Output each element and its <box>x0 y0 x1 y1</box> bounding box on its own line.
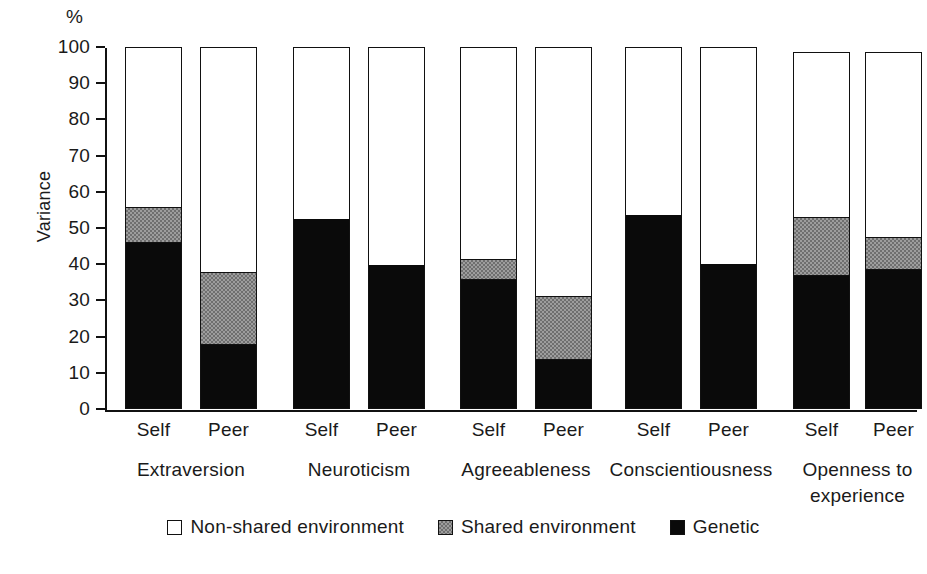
bar-agreeableness-self <box>460 47 517 409</box>
segment-genetic <box>701 264 756 408</box>
rater-label-self-8: Self <box>793 419 850 441</box>
y-tick-80: 80 <box>96 118 105 120</box>
y-tick-label-40: 40 <box>68 253 90 275</box>
chart-legend: Non-shared environmentShared environment… <box>0 516 927 538</box>
y-tick-0: 0 <box>96 408 105 410</box>
y-tick-label-80: 80 <box>68 108 90 130</box>
bar-openness-to-experience-self <box>793 52 850 409</box>
bar-openness-to-experience-peer <box>865 52 922 409</box>
group-label-line1: Openness to <box>748 457 927 483</box>
bar-extraversion-self <box>125 47 182 409</box>
y-tick-label-10: 10 <box>68 361 90 383</box>
y-axis-unit-label: % <box>66 6 83 28</box>
legend-item-non-shared-environment: Non-shared environment <box>167 516 404 538</box>
y-tick-label-90: 90 <box>68 72 90 94</box>
segment-shared-environment <box>126 207 181 243</box>
bar-agreeableness-peer <box>535 47 592 409</box>
segment-shared-environment <box>794 217 849 276</box>
segment-shared-environment <box>461 259 516 280</box>
segment-genetic <box>794 276 849 408</box>
segment-genetic <box>866 270 921 408</box>
group-label-line2: experience <box>748 483 927 509</box>
y-tick-label-20: 20 <box>68 325 90 347</box>
segment-shared-environment <box>866 237 921 270</box>
rater-label-self-2: Self <box>293 419 350 441</box>
bar-neuroticism-self <box>293 47 350 409</box>
segment-genetic <box>201 345 256 408</box>
legend-label: Genetic <box>693 516 760 538</box>
legend-item-genetic: Genetic <box>670 516 760 538</box>
stacked-bar-chart-figure: % Variance 0102030405060708090100 SelfPe… <box>0 0 927 574</box>
y-tick-10: 10 <box>96 372 105 374</box>
bar-neuroticism-peer <box>368 47 425 409</box>
y-tick-label-100: 100 <box>58 36 90 58</box>
y-tick-90: 90 <box>96 82 105 84</box>
rater-label-self-4: Self <box>460 419 517 441</box>
legend-label: Non-shared environment <box>190 516 404 538</box>
segment-genetic <box>626 215 681 408</box>
y-tick-40: 40 <box>96 263 105 265</box>
y-tick-60: 60 <box>96 191 105 193</box>
segment-shared-environment <box>536 296 591 360</box>
segment-genetic <box>294 219 349 408</box>
segment-genetic <box>369 265 424 408</box>
y-tick-label-50: 50 <box>68 217 90 239</box>
y-tick-30: 30 <box>96 299 105 301</box>
y-axis-line <box>105 48 107 412</box>
plot-area: 0102030405060708090100 <box>105 48 917 411</box>
segment-shared-environment <box>201 272 256 345</box>
rater-label-self-6: Self <box>625 419 682 441</box>
y-tick-label-30: 30 <box>68 289 90 311</box>
rater-label-peer-7: Peer <box>700 419 757 441</box>
segment-genetic <box>536 360 591 408</box>
rater-label-peer-9: Peer <box>865 419 922 441</box>
y-tick-100: 100 <box>96 46 105 48</box>
group-label-openness-to: Openness toexperience <box>748 457 927 509</box>
rater-label-peer-5: Peer <box>535 419 592 441</box>
rater-label-peer-3: Peer <box>368 419 425 441</box>
rater-label-self-0: Self <box>125 419 182 441</box>
y-tick-label-0: 0 <box>79 398 90 420</box>
legend-swatch-black <box>670 520 685 535</box>
x-axis-baseline <box>105 410 917 412</box>
bar-extraversion-peer <box>200 47 257 409</box>
y-tick-label-60: 60 <box>68 180 90 202</box>
y-tick-label-70: 70 <box>68 144 90 166</box>
rater-label-peer-1: Peer <box>200 419 257 441</box>
legend-label: Shared environment <box>461 516 636 538</box>
bar-conscientiousness-peer <box>700 47 757 409</box>
legend-item-shared-environment: Shared environment <box>438 516 636 538</box>
bar-conscientiousness-self <box>625 47 682 409</box>
y-tick-20: 20 <box>96 336 105 338</box>
segment-genetic <box>461 280 516 409</box>
segment-genetic <box>126 243 181 408</box>
legend-swatch-grey <box>438 520 453 535</box>
y-tick-50: 50 <box>96 227 105 229</box>
y-tick-70: 70 <box>96 155 105 157</box>
legend-swatch-white <box>167 520 182 535</box>
y-axis-title: Variance <box>34 147 55 267</box>
